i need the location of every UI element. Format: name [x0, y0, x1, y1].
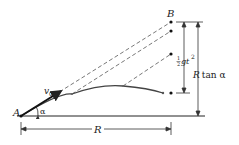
label-drop: 1 2 gt 2: [177, 53, 196, 67]
label-b: B: [166, 8, 174, 19]
angle-arc: [36, 106, 38, 116]
label-a: A: [12, 107, 20, 118]
label-angle: α: [40, 107, 46, 116]
height-dimension: [196, 22, 200, 116]
svg-text:2: 2: [177, 61, 180, 67]
projectile-diagram: A B v0 α R Rtan α 1 2 gt 2: [0, 0, 239, 145]
svg-text:2: 2: [191, 53, 195, 60]
svg-text:gt: gt: [181, 57, 190, 66]
label-velocity: v0: [44, 86, 53, 97]
target-dots: [169, 20, 172, 94]
label-range: R: [93, 124, 102, 135]
label-height: Rtan α: [192, 70, 226, 80]
